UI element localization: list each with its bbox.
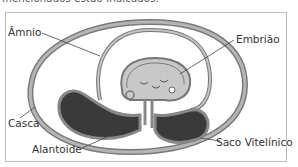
label-amnio: Âmnio <box>8 26 41 38</box>
label-alantoide: Alantoide <box>32 143 82 155</box>
label-embriao: Embrião <box>236 33 280 45</box>
label-saco-vitelinico: Saco Vitelínico <box>216 136 293 148</box>
yolk-sac <box>155 110 208 143</box>
label-casca: Casca <box>8 117 39 129</box>
